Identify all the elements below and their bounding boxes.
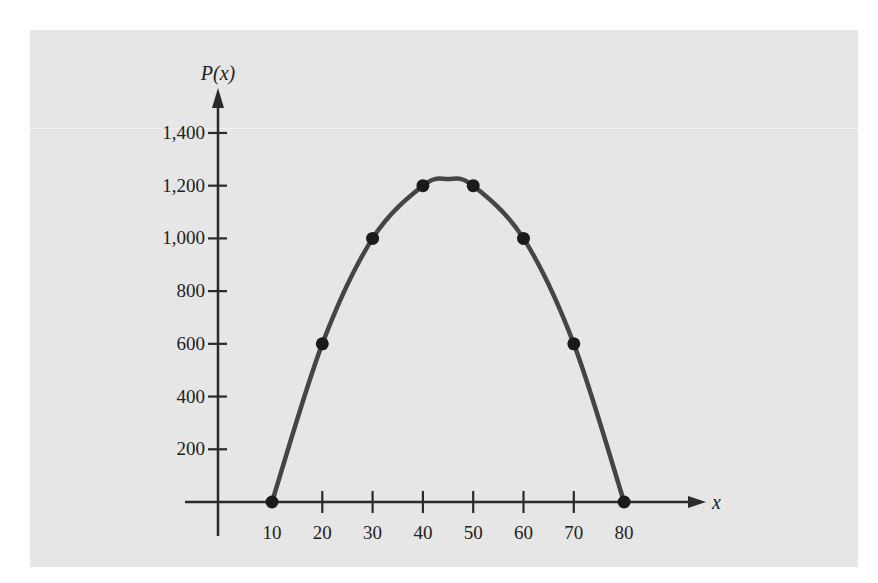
y-tick-label: 1,400: [162, 122, 205, 143]
y-tick-label: 200: [177, 438, 206, 459]
x-axis-arrow-icon: [688, 496, 706, 508]
x-tick-label: 60: [514, 522, 533, 543]
y-axis-arrow-icon: [212, 88, 224, 108]
data-point-marker: [618, 496, 631, 509]
x-tick-label: 10: [263, 522, 282, 543]
x-tick-label: 40: [413, 522, 432, 543]
data-point-marker: [266, 496, 279, 509]
x-tick-label: 20: [313, 522, 332, 543]
y-tick-label: 400: [177, 386, 206, 407]
x-tick-label: 70: [564, 522, 583, 543]
data-point-marker: [366, 232, 379, 245]
x-axis-label: x: [711, 491, 721, 513]
chart-svg: 2004006008001,0001,2001,400 102030405060…: [0, 0, 878, 583]
data-point-marker: [316, 337, 329, 350]
axes: [185, 88, 706, 536]
x-axis-ticks: 1020304050607080: [263, 491, 634, 543]
x-tick-label: 80: [615, 522, 634, 543]
x-tick-label: 50: [464, 522, 483, 543]
y-tick-label: 1,000: [162, 227, 205, 248]
y-tick-label: 1,200: [162, 175, 205, 196]
data-point-marker: [567, 337, 580, 350]
x-tick-label: 30: [363, 522, 382, 543]
data-point-marker: [517, 232, 530, 245]
data-point-marker: [467, 179, 480, 192]
y-tick-label: 800: [177, 280, 206, 301]
y-axis-label: P(x): [200, 62, 236, 85]
y-tick-label: 600: [177, 333, 206, 354]
data-points: [266, 179, 631, 508]
data-point-marker: [416, 179, 429, 192]
